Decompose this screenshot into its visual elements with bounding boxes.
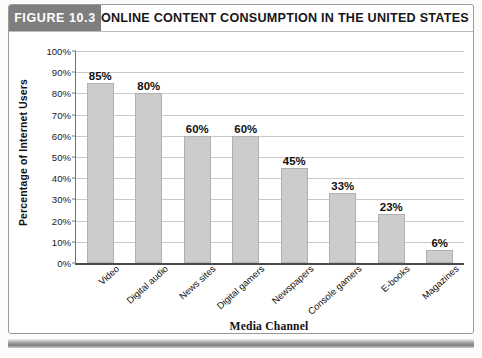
y-axis-title-text: Percentage of Internet Users xyxy=(19,78,30,225)
bar-value-label: 60% xyxy=(186,123,209,135)
x-axis-tick-label: Digital gamers xyxy=(215,263,267,311)
y-axis-tick-mark xyxy=(72,178,76,179)
y-axis-tick-mark xyxy=(72,51,76,52)
bar-value-label: 23% xyxy=(380,201,403,213)
y-axis-tick-label: 20% xyxy=(52,215,71,226)
gridline xyxy=(76,221,464,222)
y-axis-tick-label: 40% xyxy=(52,173,71,184)
bar: 23% xyxy=(378,214,405,263)
bar: 85% xyxy=(87,83,114,263)
y-axis-tick-label: 0% xyxy=(57,258,71,269)
x-axis-tick-label: Digital audio xyxy=(124,263,170,306)
y-axis-title: Percentage of Internet Users xyxy=(15,32,33,272)
y-axis-tick-label: 90% xyxy=(52,67,71,78)
y-axis-tick-label: 70% xyxy=(52,109,71,120)
figure-number-badge: FIGURE 10.3 xyxy=(9,5,101,31)
x-axis-tick-label: Newspapers xyxy=(269,263,315,306)
y-axis-tick-mark xyxy=(72,135,76,136)
gridline xyxy=(76,72,464,73)
bar: 33% xyxy=(329,193,356,263)
gridline xyxy=(76,93,464,94)
figure-title: ONLINE CONTENT CONSUMPTION IN THE UNITED… xyxy=(101,5,473,31)
x-axis-tick-label: E-books xyxy=(379,263,412,294)
y-axis-tick-mark xyxy=(72,114,76,115)
chart-body: Percentage of Internet Users 100%90%80%7… xyxy=(9,32,473,333)
figure-header: FIGURE 10.3 ONLINE CONTENT CONSUMPTION I… xyxy=(9,5,473,32)
y-axis-tick-mark xyxy=(72,241,76,242)
bar-value-label: 80% xyxy=(137,80,160,92)
bar-value-label: 33% xyxy=(331,180,354,192)
y-axis-tick-label: 10% xyxy=(52,236,71,247)
bar-value-label: 6% xyxy=(432,237,448,249)
gridline xyxy=(76,115,464,116)
page-footer-rule xyxy=(8,339,474,348)
bar: 80% xyxy=(135,93,162,263)
y-axis-tick-label: 50% xyxy=(52,152,71,163)
gridline xyxy=(76,242,464,243)
bar-value-label: 85% xyxy=(89,70,112,82)
gridline xyxy=(76,178,464,179)
x-axis-tick-label: Video xyxy=(96,263,121,287)
y-axis-tick-mark xyxy=(72,72,76,73)
gridline xyxy=(76,157,464,158)
gridline xyxy=(76,199,464,200)
y-axis-tick-label: 100% xyxy=(46,46,71,57)
bar-value-label: 60% xyxy=(234,123,257,135)
y-axis-tick-mark xyxy=(72,263,76,264)
gridline xyxy=(76,51,464,52)
y-axis-tick-label: 30% xyxy=(52,194,71,205)
y-axis-tick-mark xyxy=(72,93,76,94)
gridline xyxy=(76,136,464,137)
bar: 60% xyxy=(232,136,259,263)
bar-value-label: 45% xyxy=(283,155,306,167)
plot-area: 100%90%80%70%60%50%40%30%20%10%0% 85%80%… xyxy=(75,51,464,265)
bar: 45% xyxy=(281,168,308,263)
x-axis-title: Media Channel xyxy=(75,320,463,333)
y-axis-tick-label: 60% xyxy=(52,130,71,141)
figure-card: FIGURE 10.3 ONLINE CONTENT CONSUMPTION I… xyxy=(8,4,474,334)
y-axis-tick-label: 80% xyxy=(52,88,71,99)
bar: 6% xyxy=(426,250,453,263)
y-axis-tick-mark xyxy=(72,199,76,200)
x-axis-tick-label: News sites xyxy=(177,263,218,302)
x-axis-tick-label: Magazines xyxy=(420,263,461,302)
bar: 60% xyxy=(184,136,211,263)
y-axis-tick-mark xyxy=(72,220,76,221)
y-axis-tick-mark xyxy=(72,157,76,158)
